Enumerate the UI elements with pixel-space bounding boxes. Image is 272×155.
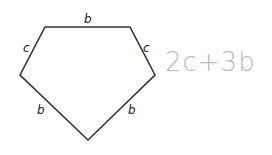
label-top-edge: b <box>84 12 92 26</box>
pentagon-shape <box>20 27 155 140</box>
label-lower-left-edge: b <box>37 103 45 117</box>
label-lower-right-edge: b <box>128 103 136 117</box>
label-upper-left-edge: c <box>23 41 30 55</box>
handwritten-answer: 2c+3b <box>165 47 256 77</box>
label-upper-right-edge: c <box>143 41 150 55</box>
pentagon-diagram: b c c b b 2c+3b <box>0 0 272 155</box>
